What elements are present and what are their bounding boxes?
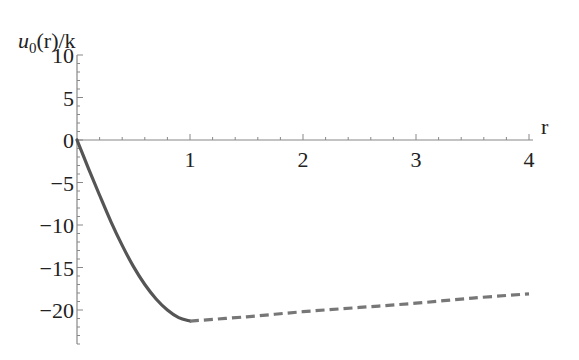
- x-tick-label: 3: [411, 147, 422, 172]
- tick-labels: 12341050−5−10−15−20: [40, 43, 535, 323]
- y-tick-label: −10: [40, 213, 74, 238]
- x-tick-label: 1: [185, 147, 196, 172]
- chart: 12341050−5−10−15−20 u0(r)/k r: [0, 0, 579, 360]
- y-tick-label: 5: [63, 86, 74, 111]
- y-tick-label: 0: [63, 128, 74, 153]
- exterior-dashed-line: [190, 294, 529, 321]
- y-axis-title-sub: 0: [29, 40, 37, 56]
- y-axis-title: u0(r)/k: [18, 28, 76, 56]
- y-axis-title-rest: (r)/k: [37, 28, 76, 53]
- y-tick-label: −5: [51, 171, 74, 196]
- y-tick-label: −15: [40, 256, 74, 281]
- interior-solid-line: [77, 140, 190, 321]
- x-tick-label: 2: [298, 147, 309, 172]
- x-tick-label: 4: [524, 147, 535, 172]
- axes: [77, 55, 533, 344]
- y-axis-title-var: u: [18, 28, 29, 53]
- y-tick-label: −20: [40, 298, 74, 323]
- x-axis-title: r: [541, 114, 549, 139]
